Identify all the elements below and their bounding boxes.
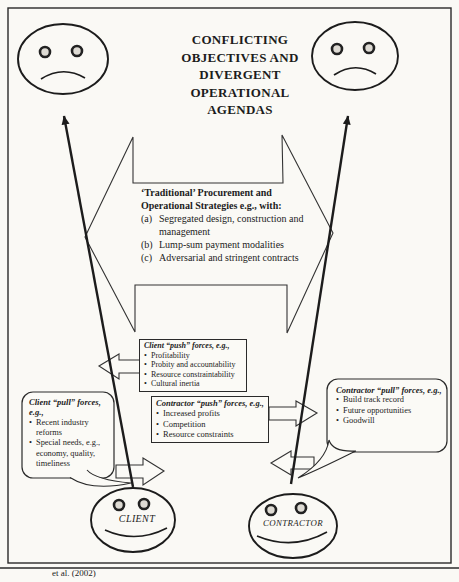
diagram-title: CONFLICTING OBJECTIVES AND DIVERGENT OPE… — [148, 31, 332, 119]
contractor-pull-title: Contractor “pull” forces, e.g., — [336, 385, 442, 395]
client-pull-bubble-text: Client “pull” forces, e.g., Recent indus… — [29, 397, 109, 469]
title-line: OBJECTIVES AND — [148, 49, 332, 67]
list-item: Cultural inertia — [144, 379, 243, 389]
client-push-list: Profitability Probity and accountability… — [144, 351, 243, 389]
client-face-label: CLIENT — [105, 513, 169, 524]
client-push-title: Client “push” forces, e.g., — [144, 341, 243, 351]
list-item: Resource constraintability — [144, 370, 243, 380]
eye-icon — [266, 505, 276, 515]
title-line: OPERATIONAL — [148, 84, 332, 102]
list-item: Build track record — [336, 395, 442, 405]
client-push-arrow-icon — [99, 354, 140, 379]
title-line: DIVERGENT — [148, 66, 332, 84]
contractor-pull-list: Build track record Future opportunities … — [336, 395, 442, 426]
client-pull-list: Recent industry reforms Special needs, e… — [29, 418, 109, 469]
list-item: Recent industry reforms — [29, 418, 109, 439]
item-marker: (b) — [141, 238, 159, 251]
strategy-item: (a) Segregated design, construction and … — [141, 212, 327, 238]
client-pull-title: Client “pull” forces, e.g., — [29, 397, 109, 418]
list-item: Increased profits — [156, 408, 265, 418]
contractor-pull-bubble-text: Contractor “pull” forces, e.g., Build tr… — [336, 385, 442, 426]
title-line: CONFLICTING — [148, 31, 332, 49]
contractor-push-title: Contractor “push” forces, e.g., — [156, 398, 265, 408]
eye-icon — [72, 46, 82, 56]
list-item: Special needs, e.g., economy, quality, t… — [29, 438, 109, 469]
traditional-strategies-text: ‘Traditional’ Procurement and Operationa… — [141, 186, 327, 264]
item-marker: (a) — [141, 212, 159, 238]
list-item: Profitability — [144, 351, 243, 361]
contractor-face-label: CONTRACTOR — [256, 518, 330, 528]
list-item: Resource constraints — [156, 429, 265, 439]
title-line: AGENDAS — [148, 101, 332, 119]
eye-icon — [114, 500, 124, 510]
eye-icon — [296, 503, 306, 513]
eye-icon — [364, 43, 374, 53]
figure-conflicting-objectives: CONFLICTING OBJECTIVES AND DIVERGENT OPE… — [0, 0, 459, 582]
list-item: Probity and accountability — [144, 360, 243, 370]
contractor-push-box: Contractor “push” forces, e.g., Increase… — [151, 396, 269, 443]
caption-fragment: et al. (2002) — [52, 568, 96, 578]
client-push-box: Client “push” forces, e.g., Profitabilit… — [139, 339, 247, 392]
item-marker: (c) — [141, 251, 159, 264]
eye-icon — [139, 499, 149, 509]
sad-face-client-icon — [18, 24, 108, 94]
list-item: Competition — [156, 419, 265, 429]
strategies-heading: ‘Traditional’ Procurement and — [141, 186, 327, 199]
contractor-push-list: Increased profits Competition Resource c… — [156, 408, 265, 439]
eye-icon — [332, 44, 342, 54]
strategy-item: (c) Adversarial and stringent contracts — [141, 251, 327, 264]
strategies-heading: Operational Strategies e.g., with: — [141, 199, 327, 212]
item-text: Lump-sum payment modalities — [159, 238, 327, 251]
list-item: Future opportunities — [336, 406, 442, 416]
item-text: Segregated design, construction and mana… — [159, 212, 327, 238]
client-pull-arrow-icon — [116, 458, 164, 485]
eye-icon — [40, 47, 50, 57]
item-text: Adversarial and stringent contracts — [159, 251, 327, 264]
strategy-item: (b) Lump-sum payment modalities — [141, 238, 327, 251]
list-item: Goodwill — [336, 416, 442, 426]
contractor-push-arrow-icon — [269, 401, 317, 426]
